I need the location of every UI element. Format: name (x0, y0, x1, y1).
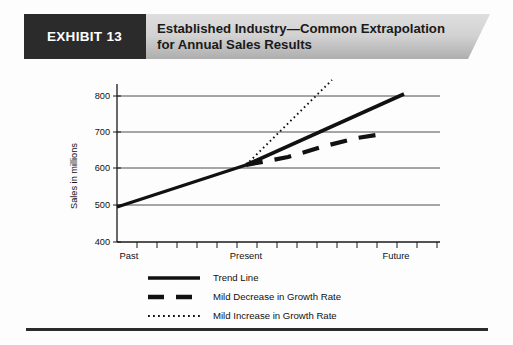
legend-item-mild-decrease: Mild Decrease in Growth Rate (148, 287, 448, 306)
exhibit-title: Established Industry—Common Extrapolatio… (157, 14, 477, 59)
series-mild-decrease-line (246, 134, 382, 165)
legend-label-mild-decrease: Mild Decrease in Growth Rate (213, 291, 341, 302)
exhibit-tag-label: EXHIBIT 13 (47, 29, 122, 44)
bottom-divider (26, 328, 488, 331)
y-tick-600: 600 (95, 163, 110, 173)
exhibit-header-banner: EXHIBIT 13 Established Industry—Common E… (24, 14, 490, 59)
y-tick-700: 700 (95, 127, 110, 137)
x-tick-past: Past (120, 250, 139, 261)
legend-item-mild-increase: Mild Increase in Growth Rate (148, 306, 448, 325)
x-tick-marks (137, 242, 437, 248)
dashed-line-swatch (148, 291, 200, 303)
legend-item-trend-line: Trend Line (148, 268, 448, 287)
exhibit-title-line-1: Established Industry—Common Extrapolatio… (157, 21, 477, 37)
y-tick-labels: 800 700 600 500 400 (95, 91, 110, 247)
chart-legend: Trend Line Mild Decrease in Growth Rate … (148, 268, 448, 325)
x-tick-labels: Past Present Future (120, 250, 410, 261)
line-chart: Sales in millions 800 700 600 500 400 (0, 62, 513, 262)
y-tick-500: 500 (95, 200, 110, 210)
x-tick-future: Future (382, 250, 409, 261)
solid-line-swatch (148, 272, 200, 284)
dotted-line-swatch (148, 310, 200, 322)
series-trend-line-future (246, 94, 404, 165)
y-tick-800: 800 (95, 91, 110, 101)
series-trend-line (117, 165, 246, 207)
y-tick-400: 400 (95, 237, 110, 247)
exhibit-number-tag: EXHIBIT 13 (24, 14, 145, 59)
series-mild-increase-line (246, 80, 332, 165)
legend-label-trend-line: Trend Line (213, 272, 259, 283)
x-tick-present: Present (230, 250, 263, 261)
legend-label-mild-increase: Mild Increase in Growth Rate (213, 310, 337, 321)
chart-area: Sales in millions 800 700 600 500 400 (0, 62, 513, 262)
exhibit-title-line-2: for Annual Sales Results (157, 37, 477, 53)
y-axis-title: Sales in millions (69, 143, 79, 209)
